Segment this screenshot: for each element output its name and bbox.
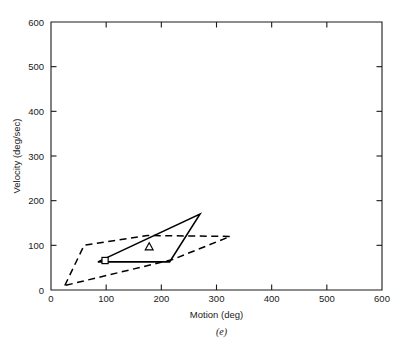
y-tick-label: 600 <box>28 17 44 28</box>
chart-canvas: 0100200300400500600 0100200300400500600 … <box>0 0 410 348</box>
square-marker <box>102 257 108 263</box>
x-tick-label: 200 <box>153 293 169 304</box>
figure-container: 0100200300400500600 0100200300400500600 … <box>0 0 410 348</box>
x-tick-label: 400 <box>264 293 280 304</box>
x-tick-label: 500 <box>319 293 335 304</box>
axis-frame <box>51 22 382 290</box>
y-tick-label: 300 <box>28 151 44 162</box>
y-tick-label: 500 <box>28 61 44 72</box>
data-marker-layer <box>102 243 153 264</box>
triangle-marker <box>145 243 153 250</box>
y-tick-label: 0 <box>39 285 44 296</box>
x-axis-title: Motion (deg) <box>190 309 243 320</box>
y-tick-label: 100 <box>28 240 44 251</box>
y-axis-title: Velocity (deg/sec) <box>11 119 22 194</box>
y-tick-label: 200 <box>28 195 44 206</box>
figure-caption: (e) <box>216 326 228 338</box>
x-axis-ticks <box>106 22 327 290</box>
y-axis-tick-labels: 0100200300400500600 <box>28 17 44 296</box>
y-tick-label: 400 <box>28 106 44 117</box>
x-tick-label: 100 <box>98 293 114 304</box>
y-axis-ticks <box>51 67 382 246</box>
series-outer-envelope <box>65 236 231 286</box>
x-tick-label: 0 <box>48 293 53 304</box>
x-tick-label: 600 <box>374 293 390 304</box>
series-inner-envelope <box>98 214 200 262</box>
x-axis-tick-labels: 0100200300400500600 <box>48 293 390 304</box>
x-tick-label: 300 <box>209 293 225 304</box>
